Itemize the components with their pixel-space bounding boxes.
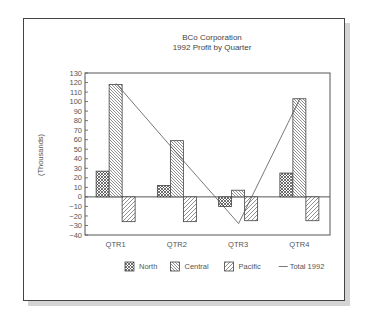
x-tick-label: QTR3	[228, 240, 248, 249]
x-tick-label: QTR1	[106, 240, 126, 249]
bar-north	[157, 185, 170, 196]
legend-label-total-1992: Total 1992	[290, 262, 325, 271]
y-tick-label: 130	[69, 69, 82, 78]
y-tick-label: 20	[74, 173, 82, 182]
y-tick-label: 50	[74, 145, 82, 154]
y-tick-label: −40	[69, 231, 82, 240]
legend-swatch-central	[171, 262, 180, 271]
bar-central	[109, 84, 122, 196]
bar-north	[280, 173, 293, 197]
line-total-1992	[116, 83, 300, 223]
y-tick-label: 70	[74, 126, 82, 135]
bar-central	[232, 190, 245, 197]
y-tick-label: 100	[69, 97, 82, 106]
bar-north	[219, 197, 232, 207]
chart-subtitle: 1992 Profit by Quarter	[173, 43, 252, 52]
x-tick-label: QTR4	[289, 240, 309, 249]
legend-label-north: North	[139, 262, 157, 271]
bar-central	[293, 99, 306, 197]
legend-swatch-pacific	[225, 262, 234, 271]
chart-svg: BCo Corporation 1992 Profit by Quarter (…	[0, 0, 365, 321]
y-tick-label: 0	[78, 192, 82, 201]
bar-central	[170, 141, 183, 197]
y-tick-label: 40	[74, 154, 82, 163]
y-tick-label: −30	[69, 221, 82, 230]
legend-swatch-north	[125, 262, 134, 271]
legend: NorthCentralPacificTotal 1992	[125, 262, 324, 271]
y-tick-label: −20	[69, 212, 82, 221]
y-tick-label: 10	[74, 183, 82, 192]
chart-title: BCo Corporation	[182, 33, 242, 42]
legend-label-pacific: Pacific	[239, 262, 261, 271]
x-tick-label: QTR2	[167, 240, 187, 249]
bar-pacific	[122, 197, 135, 222]
y-tick-label: 30	[74, 164, 82, 173]
bar-north	[96, 171, 109, 197]
bar-pacific	[183, 197, 196, 222]
y-axis-label: (Thousands)	[36, 133, 45, 176]
legend-label-central: Central	[185, 262, 210, 271]
y-tick-label: 110	[70, 88, 82, 97]
y-tick-label: 90	[74, 107, 82, 116]
y-tick-label: 60	[74, 135, 82, 144]
bar-pacific	[306, 197, 319, 221]
bar-pacific	[245, 197, 258, 221]
y-tick-label: 120	[69, 78, 82, 87]
y-tick-label: 80	[74, 116, 82, 125]
y-tick-label: −10	[69, 202, 82, 211]
plot-area: 1301201101009080706050403020100−10−20−30…	[69, 69, 330, 249]
